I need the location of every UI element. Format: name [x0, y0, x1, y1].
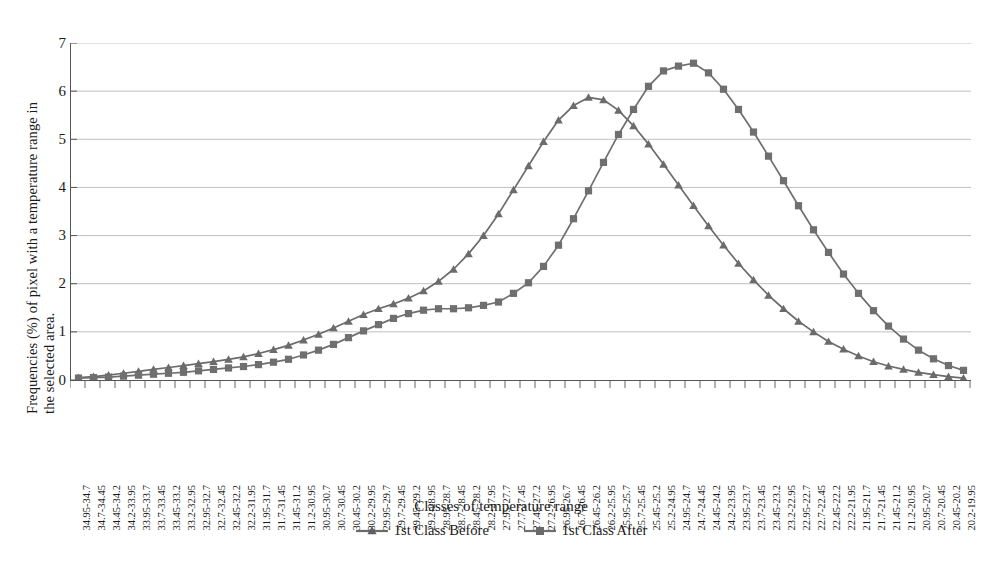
- x-axis-tick-label: 32.95-32.7: [202, 438, 213, 486]
- legend-item-before[interactable]: 1st Class Before: [355, 522, 489, 539]
- x-axis-tick-label: 31.45-31.2: [292, 438, 303, 486]
- series-line: [79, 63, 964, 378]
- x-axis-tick-label: 23.2-22.95: [787, 438, 798, 486]
- x-axis-tick-label: 25.95-25.7: [622, 438, 633, 486]
- chart-legend: 1st Class Before 1st Class After: [0, 522, 1002, 539]
- x-axis-tick-label: 23.7-23.45: [757, 438, 768, 486]
- y-axis-tick-label: 6: [59, 84, 67, 99]
- square-marker-icon: [360, 327, 367, 334]
- square-marker-icon: [705, 69, 712, 76]
- square-marker-icon: [405, 310, 412, 317]
- square-marker-icon: [645, 83, 652, 90]
- y-axis-tick-label: 1: [59, 324, 67, 339]
- square-marker-icon: [735, 106, 742, 113]
- x-axis-tick-label: 29.95-29.7: [382, 438, 393, 486]
- x-axis-tick-label: 28.45-28.2: [472, 438, 483, 486]
- square-marker-icon: [150, 371, 157, 378]
- x-axis-tick-label: 21.2-20.95: [907, 438, 918, 486]
- x-axis-tick-label: 34.2-33.95: [127, 438, 138, 486]
- x-axis-tick-label: 22.7-22.45: [817, 438, 828, 486]
- x-axis-tick-label: 28.2-27.95: [487, 438, 498, 486]
- x-axis-tick-label: 25.7-25.45: [637, 438, 648, 486]
- square-marker-icon: [540, 263, 547, 270]
- x-axis-tick-label: 33.45-33.2: [172, 438, 183, 486]
- x-axis-tick-label: 25.2-24.95: [667, 438, 678, 486]
- x-axis-tick-label: 21.95-21.7: [862, 438, 873, 486]
- square-marker-icon: [270, 359, 277, 366]
- x-axis-tick-label: 31.2-30.95: [307, 438, 318, 486]
- chart-root: Frequencies (%) of pixel with a temperat…: [0, 0, 1002, 564]
- square-marker-icon: [960, 367, 967, 374]
- square-marker-icon: [255, 361, 262, 368]
- x-axis-tick-label: 26.45-26.2: [592, 438, 603, 486]
- legend-item-after[interactable]: 1st Class After: [523, 522, 647, 539]
- square-marker-icon: [945, 362, 952, 369]
- legend-label-after: 1st Class After: [562, 522, 647, 539]
- square-marker-icon: [525, 279, 532, 286]
- square-marker-icon: [180, 369, 187, 376]
- square-marker-icon: [195, 367, 202, 374]
- square-marker-icon: [765, 153, 772, 160]
- x-axis-tick-label: 20.45-20.2: [952, 438, 963, 486]
- square-marker-icon: [555, 242, 562, 249]
- x-axis-tick-label: 33.7-33.45: [157, 438, 168, 486]
- x-axis-tick-label: 32.7-32.45: [217, 438, 228, 486]
- triangle-marker-icon: [824, 337, 833, 344]
- x-axis-tick-labels: 34.95-34.734.7-34.4534.45-34.234.2-33.95…: [70, 389, 971, 489]
- x-axis-tick-label: 33.2-32.95: [187, 438, 198, 486]
- square-marker-icon: [570, 215, 577, 222]
- x-axis-tick-label: 20.2-19.95: [967, 438, 978, 486]
- square-marker-icon: [420, 307, 427, 314]
- x-axis-tick-label: 22.45-22.2: [832, 438, 843, 486]
- square-marker-icon: [855, 290, 862, 297]
- x-axis-tick-label: 34.7-34.45: [97, 438, 108, 486]
- x-axis-tick-label: 34.95-34.7: [82, 438, 93, 486]
- square-marker-icon: [690, 60, 697, 67]
- x-axis-tick-label: 32.45-32.2: [232, 438, 243, 486]
- x-axis-tick-label: 24.2-23.95: [727, 438, 738, 486]
- x-axis-tick-label: 33.95-33.7: [142, 438, 153, 486]
- y-axis-tick-label: 7: [59, 36, 67, 51]
- square-marker-icon: [495, 298, 502, 305]
- square-marker-icon: [870, 307, 877, 314]
- triangle-marker-icon: [404, 294, 413, 301]
- x-axis-tick-label: 28.95-28.7: [442, 438, 453, 486]
- triangle-marker-icon: [569, 101, 578, 108]
- legend-label-before: 1st Class Before: [394, 522, 489, 539]
- triangle-marker-icon: [329, 324, 338, 331]
- square-marker-icon: [885, 322, 892, 329]
- square-marker-icon: [930, 355, 937, 362]
- x-axis-tick-label: 27.2-26.95: [547, 438, 558, 486]
- square-marker-icon: [840, 270, 847, 277]
- triangle-marker-icon: [854, 352, 863, 359]
- square-marker-icon: [750, 128, 757, 135]
- x-axis-tick-label: 30.7-30.45: [337, 438, 348, 486]
- x-axis-ticks: [70, 380, 971, 389]
- x-axis-title: Classes of temperature range: [0, 498, 1002, 515]
- square-marker-icon: [615, 131, 622, 138]
- square-marker-icon: [585, 187, 592, 194]
- square-marker-icon: [450, 305, 457, 312]
- square-marker-icon: [225, 364, 232, 371]
- x-axis-tick-label: 24.95-24.7: [682, 438, 693, 486]
- x-axis-tick-label: 26.2-25.95: [607, 438, 618, 486]
- square-marker-icon: [630, 106, 637, 113]
- y-axis-tick-label: 3: [59, 228, 67, 243]
- x-axis-tick-label: 27.95-27.7: [502, 438, 513, 486]
- y-axis-tick-label: 4: [59, 180, 67, 195]
- x-axis-tick-label: 29.45-29.2: [412, 438, 423, 486]
- square-marker-icon: [345, 334, 352, 341]
- series-before: [74, 93, 968, 380]
- square-marker-icon: [165, 370, 172, 377]
- x-axis-tick-label: 26.7-26.45: [577, 438, 588, 486]
- x-axis-tick-label: 34.45-34.2: [112, 438, 123, 486]
- square-marker-icon: [915, 347, 922, 354]
- x-axis-tick-label: 21.45-21.2: [892, 438, 903, 486]
- x-axis-tick-label: 31.7-31.45: [277, 438, 288, 486]
- x-axis-tick-label: 26.95-26.7: [562, 438, 573, 486]
- square-marker-icon: [240, 363, 247, 370]
- square-marker-icon: [600, 159, 607, 166]
- x-axis-tick-label: 22.95-22.7: [802, 438, 813, 486]
- square-marker-icon: [330, 341, 337, 348]
- triangle-marker-icon: [509, 186, 518, 193]
